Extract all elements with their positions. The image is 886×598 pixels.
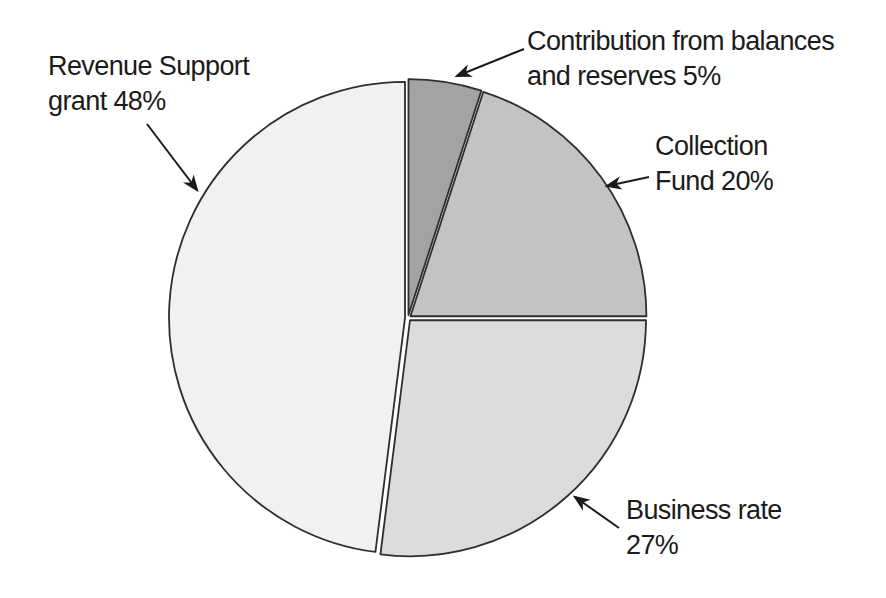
leader-arrow-collection-fund xyxy=(607,177,649,186)
leader-arrow-contribution-from-balances-and-reserves xyxy=(457,49,524,76)
pie-chart-figure: Revenue Supportgrant 48%Contribution fro… xyxy=(0,0,886,598)
pie-chart xyxy=(0,0,886,598)
leader-arrow-revenue-support-grant xyxy=(147,124,197,190)
leader-arrow-business-rate xyxy=(575,497,619,528)
pie-slice-business-rate xyxy=(380,320,646,556)
pie-slice-revenue-support-grant xyxy=(169,82,405,552)
